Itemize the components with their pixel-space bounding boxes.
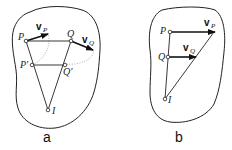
label-vq-sub: Q	[190, 47, 195, 55]
label-qprime: Q'	[63, 66, 73, 77]
label-q: Q	[67, 28, 75, 39]
label-vp: v	[36, 21, 42, 32]
label-vq: v	[183, 42, 189, 53]
label-q: Q	[158, 51, 166, 62]
label-i: I	[51, 105, 56, 116]
point-pprime	[30, 63, 34, 67]
caption-a: a	[43, 129, 51, 145]
dotted-arc-q	[65, 50, 93, 64]
caption-b: b	[175, 129, 183, 145]
label-i: I	[167, 94, 172, 105]
label-vp-sub: P	[42, 26, 48, 34]
label-vp: v	[204, 17, 210, 28]
figure-b: P Q I v P v Q b	[149, 7, 224, 145]
point-p	[168, 30, 172, 34]
line-p-i	[26, 41, 48, 110]
label-vq-sub: Q	[89, 39, 94, 47]
label-p: P	[17, 31, 24, 42]
label-p: P	[159, 25, 166, 36]
point-q	[166, 55, 170, 59]
diagram-canvas: P Q P' Q' I v P v Q a P Q I v P v Q b	[0, 0, 232, 150]
line-p-i	[165, 32, 170, 99]
line-i-vp-tip	[165, 32, 214, 99]
velocity-arrow-p	[26, 34, 48, 41]
label-vp-sub: P	[210, 22, 216, 30]
point-i	[46, 108, 50, 112]
point-q	[69, 39, 73, 43]
figure-a: P Q P' Q' I v P v Q a	[12, 7, 100, 146]
point-p	[24, 39, 28, 43]
label-pprime: P'	[19, 59, 29, 70]
point-i	[163, 97, 167, 101]
label-vq: v	[82, 34, 88, 45]
